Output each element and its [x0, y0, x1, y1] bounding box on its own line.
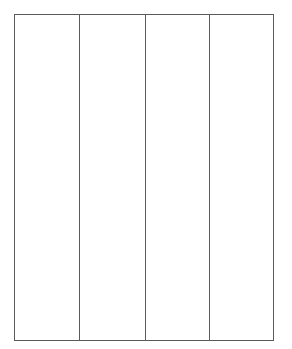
grid-column-4 [211, 15, 274, 340]
column-divider-1 [79, 15, 80, 340]
column-divider-2 [145, 15, 146, 340]
column-divider-3 [209, 15, 210, 340]
grid-column-2 [81, 15, 146, 340]
grid-column-1 [15, 15, 80, 340]
faint-header-text [60, 1, 240, 11]
grid-column-3 [147, 15, 210, 340]
four-column-grid [14, 14, 274, 341]
